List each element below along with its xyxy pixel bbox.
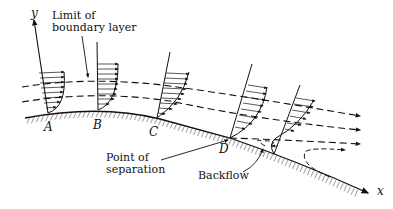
limit-label-line2: boundary layer <box>52 22 136 33</box>
profile-C <box>157 52 189 118</box>
separation-leader <box>161 140 228 160</box>
profile-B <box>97 42 118 110</box>
wall-surface <box>25 111 368 193</box>
x-axis-label: x <box>377 186 384 197</box>
point-C-label: C <box>149 127 158 138</box>
point-D-label: D <box>219 144 229 155</box>
separation-label-line2: separation <box>106 164 165 175</box>
profile-A <box>39 72 64 113</box>
diagram-canvas: y x Limit of boundary layer Point of sep… <box>0 0 393 209</box>
y-axis-label: y <box>31 8 38 19</box>
profile-D <box>230 64 267 138</box>
limit-label-line1: Limit of <box>52 10 95 21</box>
point-A-label: A <box>44 122 53 133</box>
separation-label-line1: Point of <box>106 152 149 163</box>
limit-leader <box>82 36 88 77</box>
point-B-label: B <box>93 120 102 131</box>
backflow-label: Backflow <box>198 170 249 181</box>
